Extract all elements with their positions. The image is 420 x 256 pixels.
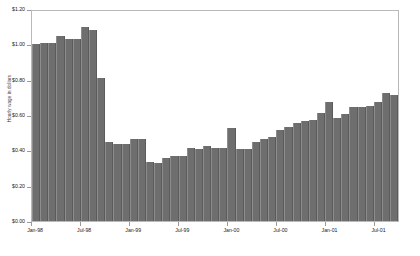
y-tick-label: $0.00 — [12, 219, 25, 224]
bar — [195, 149, 203, 221]
bar — [130, 139, 138, 221]
bar-chart: $1.20$1.00$0.80$0.60$0.40$0.20$0.00 Hour… — [0, 0, 420, 256]
bar — [138, 139, 146, 221]
bar — [293, 123, 301, 221]
x-tick-label: Jan-98 — [27, 228, 43, 233]
bar — [65, 39, 73, 221]
bar — [40, 43, 48, 222]
bar — [32, 44, 40, 221]
bar — [284, 127, 292, 222]
bar — [252, 142, 260, 221]
bar — [203, 146, 211, 221]
x-tick-label: Jan-99 — [125, 228, 141, 233]
bar — [341, 114, 349, 221]
bar — [333, 118, 341, 221]
bar — [187, 148, 195, 222]
bar — [219, 148, 227, 222]
bar — [260, 139, 268, 221]
x-tick-mark — [178, 222, 179, 226]
x-tick-mark — [129, 222, 130, 226]
bar — [317, 113, 325, 222]
plot-area — [31, 10, 399, 222]
bar — [349, 107, 357, 221]
y-tick-label: $0.40 — [12, 148, 25, 153]
x-axis: Jan-98Jul-98Jan-99Jul-99Jan-00Jul-00Jan-… — [31, 222, 399, 256]
bar — [73, 39, 81, 221]
bar — [244, 149, 252, 221]
bar — [179, 156, 187, 221]
bar — [89, 30, 97, 221]
bar — [227, 128, 235, 221]
y-tick-label: $0.20 — [12, 184, 25, 189]
bar — [366, 106, 374, 222]
bar — [382, 93, 390, 221]
y-tick-label: $1.20 — [12, 7, 25, 12]
x-tick-mark — [374, 222, 375, 226]
bar — [268, 137, 276, 221]
x-tick-label: Jan-00 — [223, 228, 239, 233]
y-tick-label: $1.00 — [12, 42, 25, 47]
x-tick-mark — [31, 222, 32, 226]
bar — [81, 27, 89, 221]
bar — [390, 95, 398, 221]
bar-series — [32, 11, 398, 221]
bar — [154, 163, 162, 221]
x-tick-label: Jul-99 — [175, 228, 189, 233]
bar — [122, 144, 130, 221]
bar — [48, 43, 56, 222]
bar — [301, 121, 309, 221]
bar — [276, 130, 284, 221]
y-tick-label: $0.60 — [12, 113, 25, 118]
x-tick-mark — [325, 222, 326, 226]
y-axis: $1.20$1.00$0.80$0.60$0.40$0.20$0.00 — [0, 0, 31, 232]
x-tick-label: Jul-01 — [371, 228, 385, 233]
x-tick-label: Jul-98 — [77, 228, 91, 233]
bar — [56, 36, 64, 222]
bar — [97, 78, 105, 222]
bar — [374, 102, 382, 221]
x-tick-mark — [227, 222, 228, 226]
x-tick-mark — [80, 222, 81, 226]
x-tick-label: Jul-00 — [273, 228, 287, 233]
x-tick-label: Jan-01 — [322, 228, 338, 233]
bar — [358, 107, 366, 221]
bar — [325, 102, 333, 221]
x-tick-mark — [276, 222, 277, 226]
bar — [162, 158, 170, 221]
y-tick-label: $0.80 — [12, 78, 25, 83]
bar — [105, 142, 113, 221]
bar — [211, 148, 219, 222]
bar — [170, 156, 178, 221]
bar — [146, 162, 154, 222]
bar — [309, 120, 317, 222]
bar — [236, 149, 244, 221]
bar — [113, 144, 121, 221]
y-axis-title: Hourly wage in dollars — [7, 64, 12, 134]
